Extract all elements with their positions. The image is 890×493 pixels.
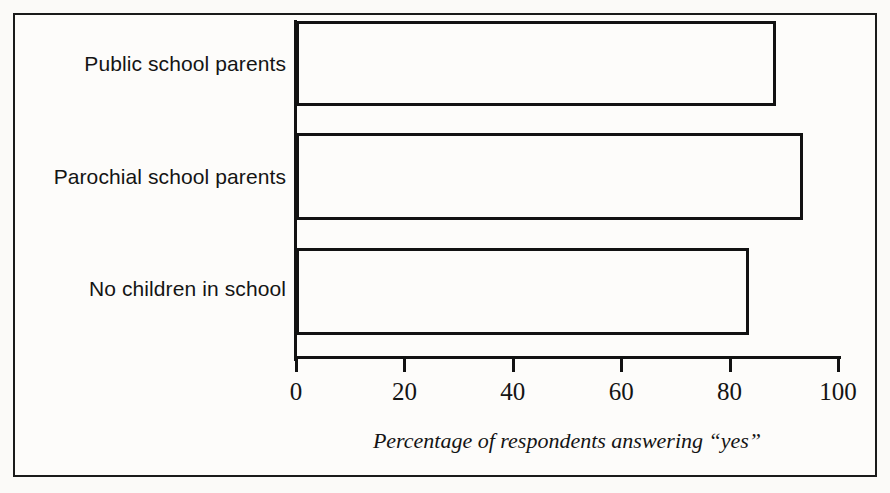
x-tick-label-100: 100: [798, 378, 878, 406]
x-tick-40: [512, 359, 515, 372]
bar-no-children-in-school: [296, 248, 749, 335]
x-axis-line: [294, 356, 841, 359]
x-tick-0: [295, 359, 298, 372]
x-tick-60: [620, 359, 623, 372]
bar-chart-plot-area: Public school parents Parochial school p…: [0, 0, 890, 493]
x-tick-20: [403, 359, 406, 372]
category-label-public-school-parents: Public school parents: [84, 52, 286, 76]
x-tick-80: [729, 359, 732, 372]
category-label-no-children-in-school: No children in school: [89, 277, 286, 301]
x-tick-label-40: 40: [473, 378, 553, 406]
x-tick-100: [837, 359, 840, 372]
y-axis-line: [294, 20, 297, 361]
x-tick-label-20: 20: [364, 378, 444, 406]
figure-screenshot: Public school parents Parochial school p…: [0, 0, 890, 493]
x-tick-label-80: 80: [690, 378, 770, 406]
bar-public-school-parents: [296, 21, 776, 106]
x-tick-label-0: 0: [256, 378, 336, 406]
bar-parochial-school-parents: [296, 133, 803, 220]
x-axis-title: Percentage of respondents answering “yes…: [296, 428, 838, 454]
category-label-parochial-school-parents: Parochial school parents: [54, 165, 286, 189]
x-tick-label-60: 60: [581, 378, 661, 406]
